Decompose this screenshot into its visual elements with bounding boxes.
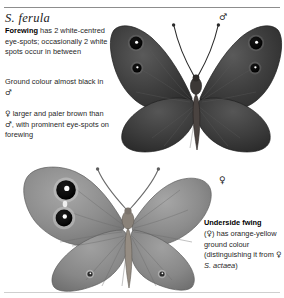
forewing-label: Forewing: [5, 26, 38, 35]
male-right-forewing: [200, 26, 282, 110]
plate-page: S. ferula Forewing has 2 white-centred e…: [0, 0, 284, 298]
ground-colour-note-body: Ground colour almost black in: [5, 77, 103, 86]
female-butterfly-underside: [2, 162, 242, 294]
female-interstitial-white-spot: [63, 201, 68, 208]
male-antenna-club-left: [172, 23, 175, 26]
female-abdomen: [125, 228, 132, 288]
male-butterfly-upperside: [108, 10, 284, 156]
female-symbol-icon: ♀: [276, 250, 282, 259]
male-right-hindwing: [196, 98, 270, 152]
female-note: ♀ larger and paler brown than ♂, with pr…: [5, 109, 109, 141]
male-symbol-icon: ♂: [5, 120, 12, 129]
female-antenna-club-left: [96, 167, 99, 170]
female-butterfly-illustration: [2, 162, 242, 294]
male-antennae: [174, 26, 218, 76]
top-divider: [4, 7, 280, 8]
male-antenna-club-right: [217, 23, 220, 26]
female-antenna-club-right: [157, 167, 160, 170]
male-left-hindwing: [122, 98, 196, 152]
male-symbol-icon: ♂: [5, 88, 12, 97]
female-note-body-2: , with prominent eye-spots on forewing: [5, 120, 109, 140]
page-title: S. ferula: [5, 11, 50, 26]
female-left-hindwing-ocellus: [86, 270, 94, 278]
ground-colour-note: Ground colour almost black in ♂: [5, 77, 109, 98]
female-note-body-1: larger and paler brown than: [11, 109, 104, 118]
female-right-hindwing-ocellus: [158, 270, 166, 278]
male-abdomen: [193, 94, 200, 150]
forewing-note: Forewing has 2 white-centred eye-spots; …: [5, 26, 109, 58]
male-left-forewing: [110, 26, 192, 110]
male-butterfly-illustration: [108, 10, 284, 156]
